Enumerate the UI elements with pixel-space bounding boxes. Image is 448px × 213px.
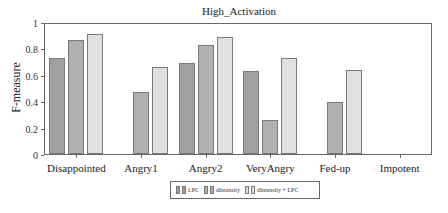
legend-swatch [204,186,208,194]
x-tick-mark [141,155,142,158]
legend-swatch [245,186,249,194]
bar-lpc-veryangry [243,71,259,154]
bar-dintensity-disappointed [68,40,84,154]
legend: LPCdIntensitydIntensity + LPC [170,181,320,199]
bar-dintensity-lpc-veryangry [281,58,297,154]
legend-swatch [251,186,255,194]
legend-label: dIntensity + LPC [257,187,298,193]
x-tick-mark [400,155,401,158]
y-tick-label: 1 [22,18,38,29]
plot-area [44,23,432,155]
legend-item: dIntensity + LPC [245,186,298,194]
bar-dintensity-lpc-angry2 [217,37,233,154]
x-tick-label: Impotent [360,162,440,174]
legend-item: LPC [176,186,199,194]
legend-swatch [182,186,186,194]
legend-swatch [210,186,214,194]
x-tick-mark [270,155,271,158]
bar-dintensity-angry2 [198,45,214,154]
legend-item: dIntensity [204,186,240,194]
legend-label: dIntensity [216,187,240,193]
y-tick-label: 0.6 [22,70,38,81]
bar-dintensity-fed-up [327,102,343,154]
x-tick-mark [76,155,77,158]
chart-title: High_Activation [0,5,448,17]
y-axis-label: F-measure [9,58,24,118]
legend-label: LPC [188,187,199,193]
bar-dintensity-veryangry [262,120,278,154]
bar-dintensity-angry1 [133,92,149,154]
bar-dintensity-lpc-fed-up [346,70,362,155]
bar-dintensity-lpc-angry1 [152,67,168,154]
x-tick-mark [335,155,336,158]
x-tick-mark [206,155,207,158]
legend-swatch [176,186,180,194]
y-tick-label: 0.4 [22,97,38,108]
y-tick-mark [41,155,44,156]
bar-lpc-disappointed [49,58,65,154]
bar-dintensity-lpc-disappointed [87,34,103,154]
bar-lpc-angry2 [179,63,195,154]
y-tick-label: 0 [22,150,38,161]
y-tick-label: 0.2 [22,123,38,134]
y-tick-label: 0.8 [22,44,38,55]
